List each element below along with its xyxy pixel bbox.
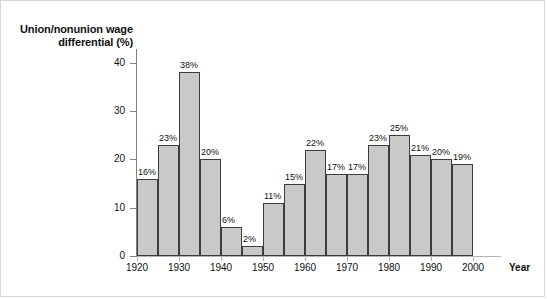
y-tick-label: 20 <box>101 154 125 164</box>
y-tick-label: 10 <box>101 203 125 213</box>
bar-value-label: 2% <box>243 235 256 244</box>
bar-value-label: 38% <box>180 61 198 70</box>
bar-value-label: 23% <box>369 134 387 143</box>
x-tick-label: 1980 <box>369 262 409 273</box>
x-tick-mark <box>389 257 390 261</box>
bar <box>368 145 389 256</box>
bar <box>179 72 200 256</box>
bar-value-label: 11% <box>264 192 281 201</box>
x-tick-mark <box>137 257 138 261</box>
bar-value-label: 20% <box>432 148 450 157</box>
bar <box>284 184 305 256</box>
x-tick-mark <box>179 257 180 261</box>
x-tick-label: 1920 <box>117 262 157 273</box>
bar-value-label: 23% <box>159 134 177 143</box>
bar-value-label: 19% <box>453 153 471 162</box>
bar <box>347 174 368 256</box>
y-tick-label: 30 <box>101 106 125 116</box>
plot-area: 16%23%38%20%6%2%11%15%22%17%17%23%25%21%… <box>137 56 473 256</box>
bar <box>326 174 347 256</box>
bar-value-label: 17% <box>348 163 366 172</box>
bar-value-label: 17% <box>327 163 345 172</box>
x-tick-label: 2000 <box>453 262 493 273</box>
x-tick-label: 1970 <box>327 262 367 273</box>
bar <box>410 155 431 256</box>
x-tick-mark <box>431 257 432 261</box>
bar <box>263 203 284 256</box>
x-tick-label: 1930 <box>159 262 199 273</box>
bar-value-label: 15% <box>285 173 303 182</box>
bar <box>158 145 179 256</box>
y-tick-label: 0 <box>101 251 125 261</box>
x-tick-mark <box>263 257 264 261</box>
bar-value-label: 16% <box>138 168 156 177</box>
x-tick-label: 1940 <box>201 262 241 273</box>
bar-value-label: 20% <box>201 148 219 157</box>
x-tick-mark <box>473 257 474 261</box>
x-axis-title: Year <box>509 262 530 273</box>
chart-figure: Union/nonunion wage differential (%) 010… <box>0 0 545 297</box>
bar-value-label: 22% <box>306 139 324 148</box>
x-axis-line <box>136 256 501 257</box>
bar <box>221 227 242 256</box>
bar <box>200 159 221 256</box>
x-tick-mark <box>305 257 306 261</box>
x-tick-label: 1960 <box>285 262 325 273</box>
x-tick-mark <box>221 257 222 261</box>
x-tick-label: 1990 <box>411 262 451 273</box>
y-tick-mark <box>130 256 137 257</box>
bar <box>452 164 473 256</box>
x-tick-label: 1950 <box>243 262 283 273</box>
y-axis-title: Union/nonunion wage differential (%) <box>11 23 133 49</box>
y-tick-mark <box>130 208 137 209</box>
x-tick-mark <box>347 257 348 261</box>
bar-value-label: 6% <box>222 216 235 225</box>
bar-value-label: 25% <box>390 124 408 133</box>
bar-value-label: 21% <box>411 144 429 153</box>
y-tick-mark <box>130 111 137 112</box>
bar <box>431 159 452 256</box>
bar <box>137 179 158 256</box>
y-tick-mark <box>130 159 137 160</box>
y-tick-label: 40 <box>101 58 125 68</box>
y-tick-mark <box>130 63 137 64</box>
bar <box>305 150 326 256</box>
bar <box>242 246 263 256</box>
bar <box>389 135 410 256</box>
